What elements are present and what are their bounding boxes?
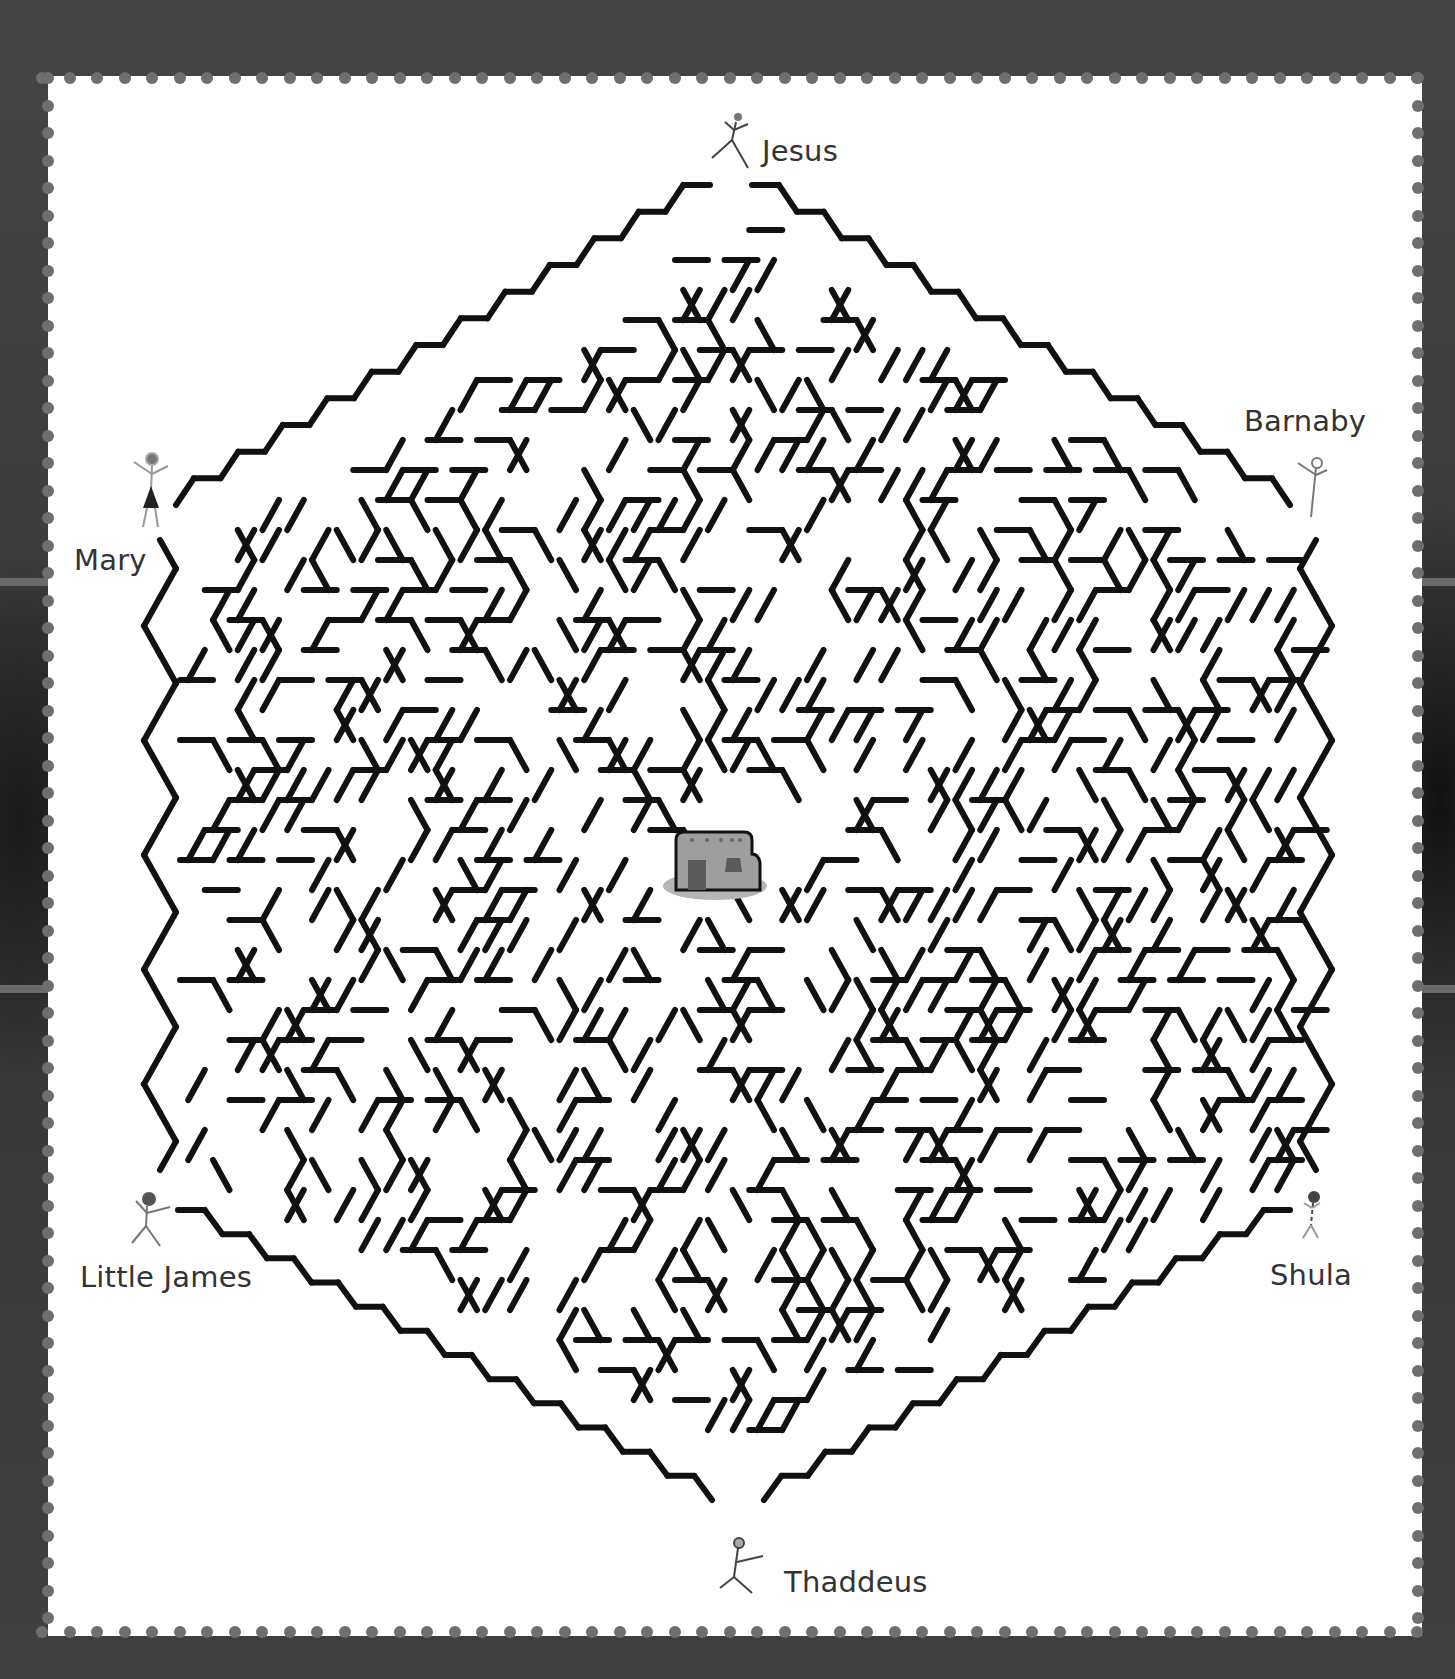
house-icon[interactable]: [663, 832, 767, 900]
label-thaddeus: Thaddeus: [784, 1565, 928, 1599]
label-jesus: Jesus: [762, 134, 838, 168]
label-shula: Shula: [1270, 1258, 1352, 1292]
thaddeus-figure-icon: [720, 1538, 763, 1593]
label-barnaby: Barnaby: [1244, 404, 1366, 438]
shula-figure-icon: [1303, 1191, 1320, 1238]
maze-walls: [0, 0, 1455, 1679]
barnaby-figure-icon: [1298, 458, 1327, 517]
mary-figure-icon: [134, 453, 168, 527]
label-little-james: Little James: [80, 1260, 252, 1294]
jesus-figure-icon: [712, 113, 748, 168]
little-james-figure-icon: [132, 1192, 170, 1246]
label-mary: Mary: [74, 543, 147, 577]
